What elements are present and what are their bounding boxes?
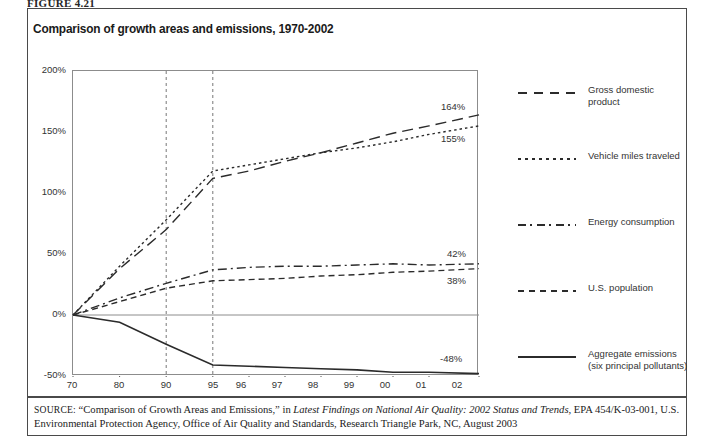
label-energy: 42% bbox=[447, 248, 466, 259]
y-tick-150: 150% bbox=[24, 125, 66, 136]
y-tick-50: 50% bbox=[24, 247, 66, 258]
source-prefix: SOURCE: bbox=[34, 404, 76, 415]
label-population: 38% bbox=[447, 275, 466, 286]
legend-label-emissions-line2: (six principal pollutants) bbox=[588, 360, 687, 371]
x-tick-80: 80 bbox=[104, 379, 134, 390]
x-tick-98: 98 bbox=[298, 379, 328, 390]
legend-label-emissions: Aggregate emissions (six principal pollu… bbox=[588, 348, 687, 372]
y-tick-100: 100% bbox=[24, 186, 66, 197]
legend-swatch-long-dash bbox=[518, 92, 576, 94]
x-tick-70: 70 bbox=[57, 379, 87, 390]
legend-item-emissions[interactable]: Aggregate emissions (six principal pollu… bbox=[518, 348, 688, 374]
legend-label-emissions-line1: Aggregate emissions bbox=[588, 348, 677, 359]
legend-label-vmt: Vehicle miles traveled bbox=[588, 150, 680, 162]
legend-swatch-solid bbox=[518, 356, 576, 358]
legend-label-gdp: Gross domestic product bbox=[588, 84, 688, 108]
y-tick-0: 0% bbox=[24, 308, 66, 319]
source-divider bbox=[27, 396, 687, 398]
source-part1: “Comparison of Growth Areas and Emission… bbox=[76, 404, 293, 415]
source-italic-title: Latest Findings on National Air Quality:… bbox=[293, 404, 571, 415]
legend-item-population[interactable]: U.S. population bbox=[518, 282, 688, 316]
label-emissions: -48% bbox=[440, 353, 462, 364]
y-tick-200: 200% bbox=[24, 64, 66, 75]
legend-swatch-dotted bbox=[518, 158, 576, 160]
figure-page: FIGURE 4.21 Comparison of growth areas a… bbox=[0, 0, 704, 443]
legend-label-energy: Energy consumption bbox=[588, 216, 675, 228]
x-tick-01: 01 bbox=[406, 379, 436, 390]
legend-item-vmt[interactable]: Vehicle miles traveled bbox=[518, 150, 688, 184]
legend-item-energy[interactable]: Energy consumption bbox=[518, 216, 688, 250]
legend-swatch-dash-dot bbox=[518, 224, 576, 226]
chart-canvas bbox=[72, 70, 480, 377]
chart-title: Comparison of growth areas and emissions… bbox=[33, 22, 333, 36]
x-tick-96: 96 bbox=[226, 379, 256, 390]
source-note: SOURCE: “Comparison of Growth Areas and … bbox=[34, 403, 682, 431]
x-tick-99: 99 bbox=[334, 379, 364, 390]
x-tick-95: 95 bbox=[198, 379, 228, 390]
x-tick-00: 00 bbox=[370, 379, 400, 390]
legend-item-gdp[interactable]: Gross domestic product bbox=[518, 84, 688, 118]
legend-swatch-short-dash bbox=[518, 290, 576, 292]
x-tick-90: 90 bbox=[151, 379, 181, 390]
figure-number: FIGURE 4.21 bbox=[27, 0, 227, 7]
label-vmt: 155% bbox=[441, 133, 465, 144]
plot-area bbox=[72, 70, 478, 375]
x-tick-97: 97 bbox=[262, 379, 292, 390]
x-tick-02: 02 bbox=[442, 379, 472, 390]
label-gdp: 164% bbox=[441, 101, 465, 112]
legend-label-population: U.S. population bbox=[588, 282, 653, 294]
